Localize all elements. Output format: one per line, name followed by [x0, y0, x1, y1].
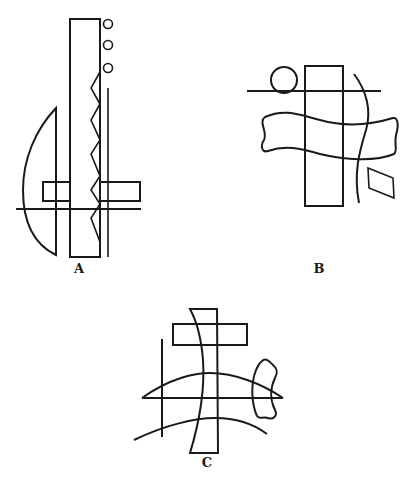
- a-circle-3: [104, 64, 113, 73]
- figure-b: [247, 66, 398, 206]
- a-right-bar: [100, 182, 140, 201]
- b-tall-rectangle: [305, 66, 343, 206]
- a-zigzag-edge: [91, 72, 100, 242]
- c-lower-arc: [134, 418, 267, 440]
- a-circle-1: [104, 20, 113, 29]
- b-circle: [271, 67, 297, 93]
- c-bent-rectangle: [190, 309, 218, 453]
- a-circle-2: [104, 41, 113, 50]
- label-a: A: [74, 261, 84, 276]
- b-curved-arc: [354, 74, 368, 203]
- figure-a: [16, 19, 141, 257]
- figure-c: [134, 309, 283, 453]
- c-horizontal-bar: [173, 324, 247, 345]
- c-bone-shape: [252, 360, 276, 419]
- figure-canvas: [0, 0, 411, 484]
- c-upper-arc: [142, 373, 283, 398]
- label-c: C: [202, 455, 212, 470]
- b-wavy-band: [262, 113, 398, 160]
- label-b: B: [314, 261, 325, 276]
- a-tall-rectangle: [70, 19, 100, 257]
- b-parallelogram: [368, 168, 394, 198]
